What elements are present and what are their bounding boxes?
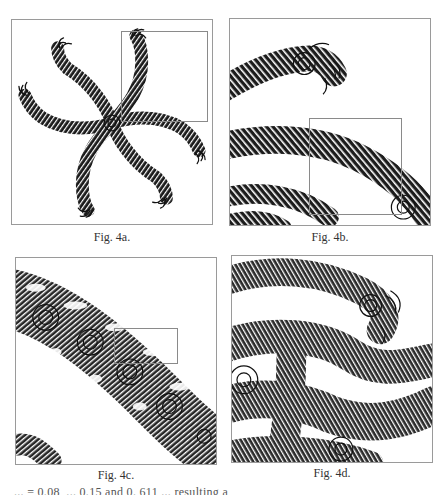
- spiral-fractal-4b-image: [230, 19, 430, 225]
- spiral-fractal-4d-image: [232, 256, 432, 462]
- figure-4c-panel: [15, 257, 217, 465]
- figure-caption-4d: Fig. 4d.: [272, 466, 392, 481]
- figure-4b-panel: [229, 18, 431, 226]
- figure-caption-4a: Fig. 4a.: [52, 230, 172, 245]
- spiral-fractal-4c-image: [16, 258, 216, 464]
- figure-caption-4c: Fig. 4c.: [56, 468, 176, 483]
- figure-caption-4b: Fig. 4b.: [270, 230, 390, 245]
- figure-4d-panel: [231, 255, 433, 463]
- spiral-fractal-4a-image: [12, 20, 212, 224]
- clipped-body-text: ... = 0.08, ... 0.15 and 0. 611 ... resu…: [14, 485, 434, 495]
- figure-4a-panel: [11, 19, 213, 225]
